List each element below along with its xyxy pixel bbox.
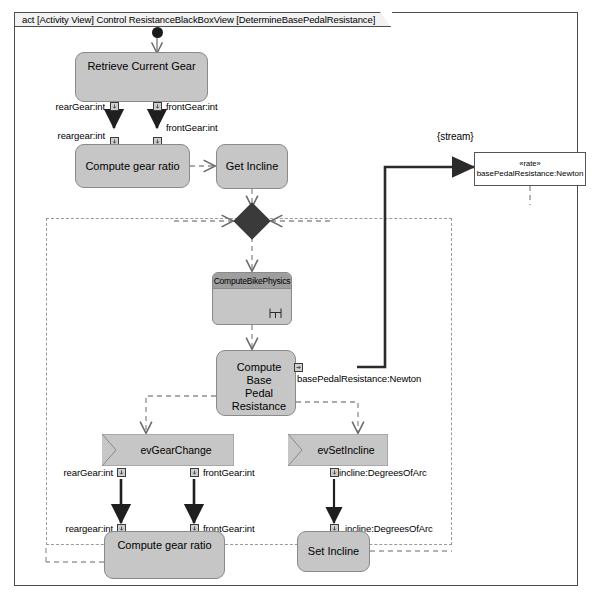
rake-icon: [269, 308, 282, 319]
pin-label-reargear-in: reargear:int: [58, 130, 105, 141]
action-get-incline[interactable]: Get Incline: [216, 144, 288, 189]
call-behavior-body: [213, 289, 291, 324]
initial-node: [152, 27, 163, 38]
accept-event-set-incline[interactable]: evSetIncline: [288, 434, 388, 466]
action-set-incline[interactable]: Set Incline: [297, 531, 370, 572]
pin-front-gear-out-2[interactable]: [190, 468, 199, 477]
action-label-line2: Pedal Resistance: [223, 387, 295, 413]
pin-label-front-gear-out-2: frontGear:int: [203, 467, 255, 478]
pin-label-base-pedal-resistance: basePedalResistance:Newton: [297, 373, 421, 384]
action-label: Retrieve Current Gear: [87, 60, 195, 73]
pin-rear-gear-out[interactable]: [110, 102, 119, 111]
event-label: evSetIncline: [317, 444, 374, 456]
call-behavior-compute-bike-physics[interactable]: ComputeBikePhysics: [212, 272, 292, 325]
accept-event-gear-change[interactable]: evGearChange: [102, 434, 234, 466]
pin-incline-out[interactable]: [330, 468, 339, 477]
action-label: Get Incline: [226, 160, 279, 173]
pin-label-reargear-in-2: reargear:int: [66, 523, 113, 534]
object-node-name: basePedalResistance:Newton: [477, 169, 584, 179]
action-compute-gear-ratio-top[interactable]: Compute gear ratio: [75, 144, 190, 188]
pin-base-pedal-resistance-out[interactable]: [294, 363, 303, 372]
object-node-stereotype: «rate»: [519, 159, 540, 169]
stream-annotation: {stream}: [437, 131, 473, 142]
action-label: Compute gear ratio: [117, 539, 211, 552]
pin-label-incline-out: incline:DegreesOfArc: [339, 467, 427, 478]
call-behavior-title: ComputeBikePhysics: [213, 273, 291, 289]
pin-label-rear-gear-out-2: rearGear:int: [64, 467, 114, 478]
action-label: Set Incline: [308, 545, 359, 558]
action-label-line1: Compute Base: [223, 361, 295, 387]
action-retrieve-current-gear[interactable]: Retrieve Current Gear: [75, 52, 208, 102]
activity-diagram-canvas: act [Activity View] Control ResistanceBl…: [0, 0, 607, 601]
pin-label-rear-gear-out: rearGear:int: [56, 101, 106, 112]
activity-frame-label: act [Activity View] Control ResistanceBl…: [14, 12, 392, 27]
pin-rear-gear-out-2[interactable]: [117, 468, 126, 477]
action-compute-base-pedal-resistance[interactable]: Compute Base Pedal Resistance: [216, 350, 296, 416]
pin-label-front-gear-out: frontGear:int: [166, 101, 218, 112]
object-node-base-pedal-resistance[interactable]: «rate» basePedalResistance:Newton: [474, 152, 586, 186]
action-label: Compute gear ratio: [85, 160, 179, 173]
pin-front-gear-out[interactable]: [153, 102, 162, 111]
pin-label-frontgear-in: frontGear:int: [166, 122, 218, 133]
event-label: evGearChange: [140, 444, 211, 456]
action-compute-gear-ratio-bottom[interactable]: Compute gear ratio: [104, 531, 225, 579]
